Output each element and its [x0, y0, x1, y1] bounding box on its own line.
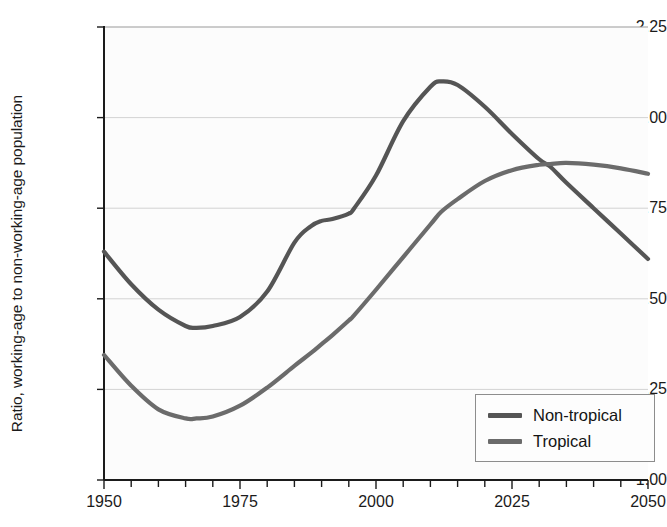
legend-label: Non-tropical — [533, 406, 622, 425]
legend-item: Tropical — [476, 428, 654, 454]
legend-swatch — [488, 413, 522, 418]
legend-label: Tropical — [533, 432, 591, 451]
chart-legend: Non-tropicalTropical — [475, 394, 655, 462]
chart-figure: Ratio, working-age to non-working-age po… — [0, 0, 667, 527]
legend-swatch — [488, 439, 522, 444]
legend-item: Non-tropical — [476, 402, 654, 428]
